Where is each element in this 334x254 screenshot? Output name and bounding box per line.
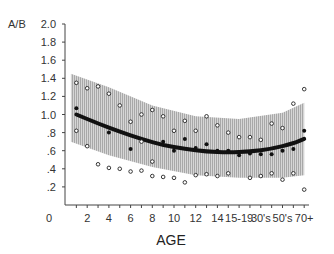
y-tick-label: .6	[47, 145, 56, 157]
open-point	[302, 87, 306, 91]
open-point	[75, 129, 79, 133]
y-tick-label: 2.0	[41, 18, 56, 30]
open-point	[75, 81, 79, 85]
open-point	[151, 160, 155, 164]
open-point	[292, 172, 296, 176]
open-point	[151, 108, 155, 112]
open-point	[129, 170, 133, 174]
x-tick-label: 15-19	[225, 212, 253, 224]
open-point	[281, 178, 285, 182]
open-point	[96, 162, 100, 166]
filled-point	[129, 147, 133, 151]
open-point	[216, 124, 220, 128]
open-point	[140, 169, 144, 173]
open-point	[172, 129, 176, 133]
filled-point	[205, 142, 209, 146]
x-tick-label: 6	[128, 212, 134, 224]
open-point	[270, 122, 274, 126]
open-point	[237, 135, 241, 139]
open-point	[107, 92, 111, 96]
open-point	[161, 115, 165, 119]
open-point	[161, 175, 165, 179]
filled-point	[237, 153, 241, 157]
filled-point	[74, 106, 78, 110]
y-tick-label: 1.6	[41, 54, 56, 66]
y-tick-label: 1.4	[41, 72, 56, 84]
open-point	[118, 167, 122, 171]
x-tick-label: 12	[190, 212, 202, 224]
filled-point	[291, 147, 295, 151]
y-axis-title: A/B	[8, 18, 26, 30]
open-point	[140, 113, 144, 117]
y-tick-label: .2	[47, 181, 56, 193]
filled-point	[259, 152, 263, 156]
open-point	[248, 135, 252, 139]
open-point	[151, 174, 155, 178]
open-point	[216, 174, 220, 178]
filled-point	[194, 146, 198, 150]
open-point	[205, 172, 209, 176]
x-ticks: 246810121415-1930's50's70+	[76, 205, 313, 224]
filled-point	[215, 149, 219, 153]
filled-point	[281, 149, 285, 153]
y-tick-label: .8	[47, 127, 56, 139]
open-point	[194, 173, 198, 177]
x-axis-title: AGE	[156, 232, 186, 248]
filled-point	[226, 149, 230, 153]
x-tick-label: 2	[84, 212, 90, 224]
open-point	[248, 176, 252, 180]
x-tick-label: 10	[168, 212, 180, 224]
filled-point	[270, 152, 274, 156]
open-point	[205, 115, 209, 119]
open-point	[129, 120, 133, 124]
open-point	[118, 104, 122, 108]
x-tick-label: 70+	[295, 212, 314, 224]
filled-point	[183, 137, 187, 141]
x-tick-label: 14	[211, 212, 223, 224]
open-point	[85, 144, 89, 148]
open-point	[226, 172, 230, 176]
filled-point	[302, 129, 306, 133]
open-point	[140, 140, 144, 144]
x-tick-label: 8	[149, 212, 155, 224]
open-point	[172, 176, 176, 180]
open-point	[259, 174, 263, 178]
open-point	[194, 129, 198, 133]
open-point	[107, 166, 111, 170]
x-tick-label: 4	[106, 212, 112, 224]
y-tick-label: 1.2	[41, 90, 56, 102]
open-point	[259, 138, 263, 142]
open-point	[302, 188, 306, 192]
open-point	[281, 126, 285, 130]
open-point	[183, 181, 187, 185]
y-tick-label: 1.8	[41, 36, 56, 48]
x-tick-label: 50's	[273, 212, 293, 224]
y-ticks: .2.4.6.81.01.21.41.61.82.0	[41, 18, 65, 193]
open-point	[96, 85, 100, 89]
y-tick-label: .4	[47, 163, 56, 175]
scatter-chart: .2.4.6.81.01.21.41.61.82.0 246810121415-…	[0, 0, 334, 254]
open-point	[270, 172, 274, 176]
open-point	[85, 86, 89, 90]
open-point	[292, 102, 296, 106]
x-tick-label: 30's	[251, 212, 271, 224]
filled-point	[161, 140, 165, 144]
y-tick-label: 1.0	[41, 109, 56, 121]
y-zero-label: 0	[46, 212, 52, 224]
filled-point	[172, 149, 176, 153]
open-point	[183, 119, 187, 123]
filled-point	[107, 131, 111, 135]
open-point	[226, 131, 230, 135]
filled-point	[248, 151, 252, 155]
